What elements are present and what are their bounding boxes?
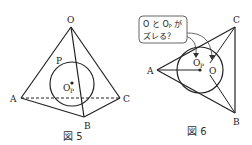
label-C: C xyxy=(123,94,130,104)
label-C: C xyxy=(233,15,240,25)
caption-figure-6: 図 6 xyxy=(187,126,207,137)
figure-6: O と OP が ズレる？ A B C O O P 図 6 xyxy=(139,15,240,137)
caption-figure-5: 図 5 xyxy=(63,131,83,142)
edge-AB xyxy=(21,98,84,117)
figure-5: O A B C P O P 図 5 xyxy=(9,15,130,142)
line-O-C xyxy=(210,27,235,63)
label-Op-sub: P xyxy=(200,62,204,69)
label-A: A xyxy=(9,94,17,104)
edge-AB xyxy=(157,70,235,113)
edge-BC xyxy=(84,98,120,117)
line-O-B xyxy=(210,75,235,113)
label-B: B xyxy=(233,117,240,127)
label-O: O xyxy=(67,15,74,25)
label-P: P xyxy=(56,56,62,66)
center-point-Op xyxy=(70,81,73,84)
diagram-canvas: O A B C P O P 図 5 O と OP が ズレる？ A xyxy=(0,0,252,145)
label-A: A xyxy=(146,66,154,76)
label-B: B xyxy=(84,121,91,131)
bubble-line-2: ズレる？ xyxy=(143,31,175,41)
label-Op-sub: P xyxy=(70,87,74,94)
bubble-line-1: O と OP が xyxy=(143,19,182,29)
label-O: O xyxy=(209,66,216,76)
